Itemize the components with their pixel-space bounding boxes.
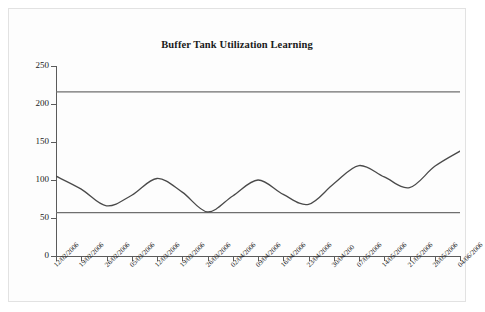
utilization-curve [56, 151, 460, 212]
y-tick-label-wrap: 0 [9, 251, 49, 261]
x-tick-label: 04/06/2006 [457, 241, 484, 268]
y-tick-label: 150 [15, 137, 49, 146]
chart-frame: Buffer Tank Utilization Learning 0501001… [8, 8, 466, 302]
y-tick-label: 0 [15, 251, 49, 260]
y-tick-label: 250 [15, 61, 49, 70]
y-tick-label: 50 [15, 213, 49, 222]
y-tick-label-wrap: 250 [9, 61, 49, 71]
y-tick-label-wrap: 150 [9, 137, 49, 147]
plot-area [56, 66, 460, 256]
chart-title: Buffer Tank Utilization Learning [9, 39, 465, 50]
y-tick-label-wrap: 200 [9, 99, 49, 109]
line-chart-svg [56, 66, 460, 256]
y-tick-label-wrap: 50 [9, 213, 49, 223]
y-tick-label-wrap: 100 [9, 175, 49, 185]
y-tick-label: 100 [15, 175, 49, 184]
y-tick-label: 200 [15, 99, 49, 108]
